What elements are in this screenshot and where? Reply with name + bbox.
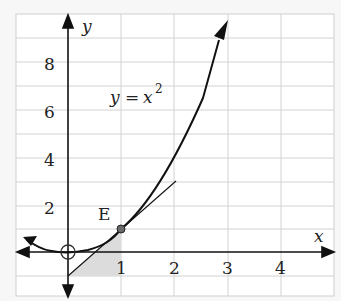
svg-text:x: x: [143, 87, 153, 107]
y-tick-8: 8: [44, 54, 55, 74]
x-tick-1: 1: [116, 258, 127, 278]
y-axis-label: y: [81, 16, 92, 36]
x-tick-3: 3: [222, 258, 233, 278]
y-tick-2: 2: [44, 198, 55, 218]
x-tick-2: 2: [169, 258, 180, 278]
svg-text:2: 2: [155, 82, 163, 96]
svg-text:y: y: [109, 87, 120, 107]
x-tick-4: 4: [275, 258, 286, 278]
function-graph: y x 8 6 4 2 1 2 3 4 E y = x 2: [0, 0, 341, 301]
point-e: [117, 225, 125, 233]
y-tick-6: 6: [44, 102, 55, 122]
point-e-label: E: [98, 204, 110, 224]
svg-text:=: =: [125, 87, 139, 107]
y-tick-4: 4: [44, 150, 55, 170]
x-axis-label: x: [314, 226, 324, 246]
